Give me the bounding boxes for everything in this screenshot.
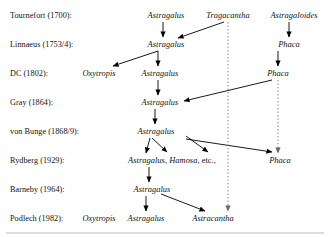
row-label-barneby: Barneby (1964): [10, 185, 65, 194]
row-label-podlech: Podlech (1982): [10, 214, 63, 223]
taxon-p-oxytropis: Oxytropis [82, 214, 115, 223]
arrow-b-astragalus-to-r-phaca [186, 139, 272, 152]
row-label-vonbunge: von Bunge (1868/9): [10, 127, 79, 136]
taxon-d-phaca: Phaca [267, 69, 289, 78]
taxon-l-astragalus: Astragalus [148, 40, 185, 49]
taxon-b-astragalus: Astragalus [138, 127, 175, 136]
taxon-t-astragalus: Astragalus [148, 11, 185, 20]
taxon-l-phaca: Phaca [278, 40, 300, 49]
taxon-r-astragalus: Astragalus, Hamosa, etc., [128, 156, 216, 165]
arrow-b-astragalus-to-r-astragalus-a [146, 138, 150, 153]
arrow-bn-astragalus-to-p-astracantha [161, 194, 205, 211]
taxon-r-phaca: Phaca [269, 156, 291, 165]
taxon-bn-astragalus: Astragalus [134, 185, 171, 194]
arrow-t-tragacantha-to-l-astragalus [178, 22, 224, 38]
arrow-d-phaca-to-g-astragalus [184, 80, 272, 101]
taxon-p-astracantha: Astracantha [192, 214, 234, 223]
row-label-linnaeus: Linnaeus (1753/4): [10, 40, 73, 49]
taxon-p-astragalus: Astragalus [128, 214, 165, 223]
row-label-tournefort: Tournefort (1700): [10, 11, 72, 20]
taxon-t-astragaloides: Astragaloides [270, 11, 317, 20]
arrow-b-astragalus-to-r-astragalus-c [186, 136, 208, 152]
row-label-gray: Gray (1864): [10, 98, 53, 107]
phylogeny-diagram: Tournefort (1700):Linnaeus (1753/4):DC (… [0, 0, 330, 237]
taxon-t-tragacantha: Tragacantha [206, 11, 249, 20]
connector-layer [0, 0, 330, 237]
taxon-g-astragalus: Astragalus [142, 98, 179, 107]
arrow-l-astragalus-to-d-oxytropis [113, 51, 158, 66]
taxon-d-astragalus: Astragalus [142, 69, 179, 78]
arrow-b-astragalus-to-r-astragalus-b [152, 138, 167, 152]
dotted-arrow-group [228, 22, 289, 211]
row-label-dc: DC (1802): [10, 69, 48, 78]
row-label-rydberg: Rydberg (1929): [10, 156, 65, 165]
taxon-d-oxytropis: Oxytropis [82, 69, 115, 78]
solid-arrow-group [113, 22, 272, 211]
